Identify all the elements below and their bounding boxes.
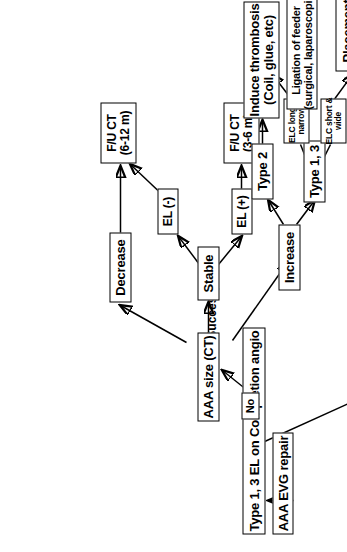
node-induce-thrombosis-line2: (Coil, glue, etc) [261,15,275,105]
node-decision-type13-el[interactable]: Type 1, 3 EL on Completion angio [242,327,265,534]
flowchart-canvas: AAA EVG repair Type 1, 3 EL on Completio… [0,0,347,552]
node-type-1-3-label: Type 1, 3 [307,145,321,198]
edge-increase-to-type2 [268,200,283,224]
edge-aaasize-to-decrease [120,305,186,342]
node-el-negative-label: EL (-) [161,196,174,225]
node-el-negative[interactable]: EL (-) [157,188,178,234]
edge-increase-to-type13 [296,200,314,224]
node-placement-of-cuff[interactable]: Placement of Cuff or 2nd EVG [335,0,347,71]
node-aaa-size-label: AAA size (CT) [201,335,215,418]
node-branch-no-label: No [244,398,256,412]
node-elc-short-wide-line2: wide [333,111,342,129]
flowchart-stage: AAA EVG repair Type 1, 3 EL on Completio… [0,0,347,552]
node-type-2-label: Type 2 [255,151,269,190]
node-type-2[interactable]: Type 2 [251,143,273,199]
edge-stable-to-elneg [178,236,199,264]
node-increase[interactable]: Increase [278,224,300,290]
node-stable[interactable]: Stable [197,246,219,300]
node-induce-thrombosis[interactable]: Induce thrombosis (Coil, glue, etc) [243,1,279,118]
node-start[interactable]: AAA EVG repair [272,432,293,534]
edge-elcshort-to-cuff [333,74,347,100]
node-fuct-6-12m[interactable]: F/U CT (6-12 m) [100,102,136,163]
node-type-1-3[interactable]: Type 1, 3 [303,140,325,202]
node-decision-label: Type 1, 3 EL on Completion angio [247,330,261,531]
node-ligation-of-feeder[interactable]: Ligation of feeder (surgical, laparoscop… [286,0,317,109]
node-placement-of-cuff-line1: Placement of Cuff [340,0,347,62]
edge-stable-to-elpos [218,236,241,264]
node-fuct-3-6m-line1: F/U CT [228,114,241,151]
node-increase-label: Increase [282,231,296,282]
node-fuct-6-12m-line1: F/U CT [105,114,118,151]
node-aaa-size[interactable]: AAA size (CT) [197,332,219,421]
node-elc-long-narrow-line2: narrow [296,107,305,134]
node-decrease[interactable]: Decrease [109,232,131,302]
node-branch-no[interactable]: No [241,392,259,419]
node-el-positive-label: EL (+) [235,195,248,227]
node-decrease-label: Decrease [113,239,127,295]
node-ligation-of-feeder-line2: (surgical, laparoscopic) [302,0,314,109]
node-induce-thrombosis-line1: Induce thrombosis [247,3,261,116]
node-el-positive[interactable]: EL (+) [231,188,252,234]
edge-decision-to-yes [262,356,347,442]
node-stable-label: Stable [201,254,215,292]
node-ligation-of-feeder-line1: Ligation of feeder [290,6,302,95]
node-fuct-6-12m-line2: (6-12 m) [118,110,131,154]
node-start-label: AAA EVG repair [276,435,290,531]
node-elc-short-wide[interactable]: ELC short & wide [320,98,346,143]
